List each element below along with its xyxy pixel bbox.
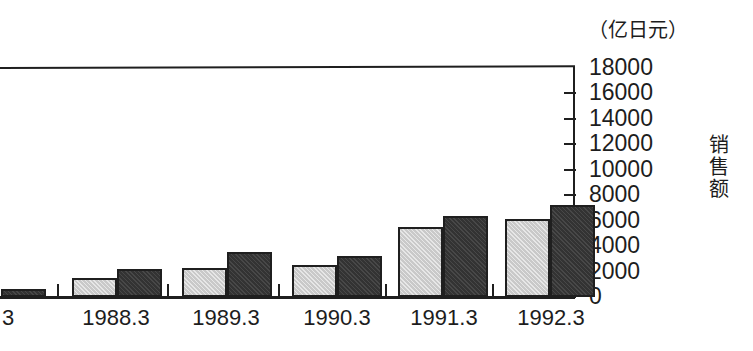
bar-dark-series-1990.3 — [337, 256, 382, 297]
y-axis-tick-label: 16000 — [589, 81, 653, 104]
unit-caption: （亿日元） — [588, 14, 688, 43]
bar-light-series-1991.3 — [398, 227, 443, 297]
x-axis-tick — [167, 284, 169, 297]
y-axis-tick-label: 8000 — [589, 183, 640, 206]
x-axis-tick — [278, 284, 280, 297]
y-axis-tick-label: 18000 — [589, 56, 653, 79]
bar-chart: （亿日元） 1800016000140001200010000800060004… — [0, 0, 753, 351]
bar-light-series-1989.3 — [182, 268, 227, 297]
bar-dark-series-1988.3 — [117, 269, 162, 297]
x-axis-tick-label: 1991.3 — [410, 306, 477, 330]
y-axis-tick — [564, 92, 576, 94]
plot-frame-top-rule — [0, 65, 575, 69]
bar-dark-series-1992.3 — [550, 205, 595, 297]
y-axis-tick-label: 4000 — [589, 234, 640, 257]
x-axis-tick-label: 1990.3 — [303, 306, 370, 330]
y-axis-tick — [564, 169, 576, 171]
y-axis-tick — [564, 194, 576, 196]
y-axis-tick — [564, 118, 576, 120]
bar-light-series-1988.3 — [72, 278, 117, 297]
y-axis-tick-label: 12000 — [589, 132, 653, 155]
bar-light-series-1990.3 — [292, 265, 337, 297]
y-axis-tick-label: 14000 — [589, 107, 653, 130]
bar-light-series-1992.3 — [505, 219, 550, 297]
bar-dark-series-1989.3 — [227, 252, 272, 297]
bar-dark-series-1991.3 — [443, 216, 488, 297]
x-axis-tick — [492, 284, 494, 297]
y-axis-tick — [564, 143, 576, 145]
x-axis-tick — [57, 284, 59, 297]
y-axis-tick-label: 6000 — [589, 209, 640, 232]
x-axis-tick-label: 1989.3 — [192, 306, 259, 330]
bar-dark-series-3 — [1, 289, 46, 297]
y-axis-tick-label: 10000 — [589, 158, 653, 181]
x-axis-tick — [385, 284, 387, 297]
x-axis-tick-label: 1992.3 — [517, 306, 584, 330]
y-axis-series-label: 销售额 — [700, 134, 730, 200]
x-axis-tick-label: 1988.3 — [82, 306, 149, 330]
x-axis-tick-label: 3 — [2, 306, 14, 330]
y-axis-tick-label: 2000 — [589, 260, 640, 283]
